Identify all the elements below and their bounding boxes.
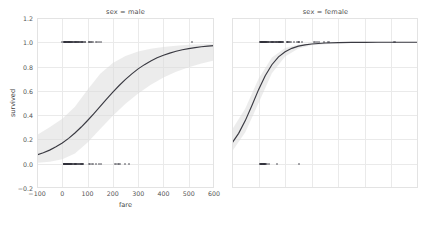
logistic-curve-path — [37, 46, 214, 155]
scatter-point — [95, 163, 97, 165]
plot-area-male — [37, 18, 214, 188]
x-axis-ticks-male: −1000100200300400500600 — [37, 188, 214, 200]
x-tick-label: 200 — [107, 190, 119, 197]
facet-title-male: sex = male — [37, 8, 214, 16]
x-tick-label: 400 — [157, 190, 169, 197]
facet-panel-male: sex = male −1000100200300400500600 fare — [0, 0, 215, 225]
logistic-regression-figure: survived −0.20.00.20.40.60.81.01.2 sex =… — [0, 0, 430, 225]
x-tick-label: 0 — [60, 190, 64, 197]
scatter-point — [298, 163, 300, 165]
scatter-point — [268, 163, 270, 165]
scatter-point — [100, 163, 102, 165]
scatter-point — [91, 163, 93, 165]
logistic-curve-path — [232, 42, 418, 143]
scatter-point — [124, 163, 126, 165]
x-tick-label: 300 — [132, 190, 144, 197]
x-axis-label-male: fare — [37, 201, 214, 209]
x-tick-label: 500 — [183, 190, 195, 197]
x-tick-label: 100 — [82, 190, 94, 197]
scatter-point — [118, 163, 120, 165]
facet-panel-female: sex = female −1000100200300400500600 far… — [215, 0, 430, 225]
facet-title-female: sex = female — [233, 8, 418, 16]
x-tick-label: −100 — [28, 190, 45, 197]
scatter-point — [276, 163, 278, 165]
plot-area-female — [232, 18, 418, 188]
scatter-point — [128, 163, 130, 165]
